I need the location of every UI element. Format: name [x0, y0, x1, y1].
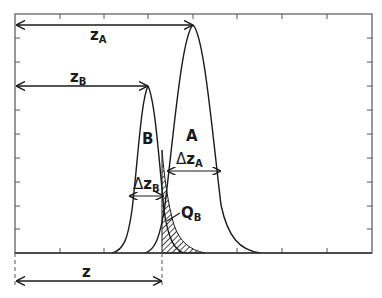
top-ticks [60, 14, 327, 19]
label-z: z [82, 265, 91, 280]
label-qb: QB [181, 206, 201, 223]
label-zb: zB [70, 70, 86, 87]
label-peak-a: A [186, 129, 198, 144]
label-dza: ΔzA [176, 152, 203, 169]
peak-diagram [0, 0, 382, 298]
label-peak-b: B [142, 132, 153, 147]
left-ticks [15, 38, 20, 229]
peak-a-curve [145, 25, 260, 253]
label-dzb: ΔzB [133, 177, 160, 194]
right-ticks [367, 38, 372, 229]
label-za: zA [90, 28, 106, 45]
